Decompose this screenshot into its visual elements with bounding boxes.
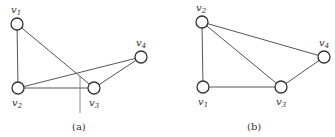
label-v1: v1 [11, 4, 21, 17]
label-v4: v4 [319, 37, 329, 50]
node-v1 [197, 81, 209, 93]
caption-b: (b) [247, 121, 261, 132]
edge-v1-v2 [17, 24, 18, 88]
label-v3: v3 [276, 96, 287, 109]
edge-v2-v4 [202, 22, 324, 57]
node-v2 [196, 16, 208, 28]
label-v4: v4 [136, 37, 146, 50]
node-v4 [318, 51, 330, 63]
node-v2 [12, 82, 24, 94]
label-v1: v1 [198, 96, 208, 109]
edge-v2-v1 [202, 22, 203, 87]
node-v1 [11, 18, 23, 30]
edge-v3-v4 [94, 57, 141, 88]
label-v2: v2 [12, 97, 23, 110]
edge-v2-v3 [202, 22, 281, 87]
graph-b: v2 v1 v3 v4 (b) [196, 2, 330, 132]
node-v3 [88, 82, 100, 94]
graph-a: v1 v2 v3 v4 (a) [11, 4, 147, 132]
label-v2: v2 [196, 2, 207, 15]
node-v4 [135, 51, 147, 63]
edge-v3-v4 [281, 57, 324, 87]
caption-a: (a) [72, 121, 86, 132]
graph-figure: v1 v2 v3 v4 (a) v2 v1 v3 v4 (b) [0, 0, 335, 137]
label-v3: v3 [89, 97, 100, 110]
node-v3 [275, 81, 287, 93]
